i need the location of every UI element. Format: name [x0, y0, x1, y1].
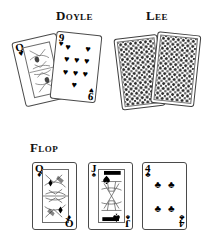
pip-heart: ♥ — [83, 57, 89, 67]
card-queen-of-diamonds[interactable]: Q ♦ — [32, 162, 77, 230]
card-index-bottom-right: J ♠ — [125, 213, 131, 228]
card-face-down-right[interactable] — [150, 31, 201, 107]
club-icon: ♣ — [179, 213, 184, 220]
diamond-icon: ♦ — [37, 172, 41, 179]
card-index-bottom-right: 4 ♣ — [179, 213, 185, 228]
poker-illustration: Doyle Q ♥ — [0, 0, 212, 240]
pip-heart: ♥ — [85, 45, 91, 55]
pip-grid-four-clubs: ♣ ♣ ♣ ♣ — [151, 172, 178, 220]
pip-club: ♣ — [168, 179, 175, 190]
pip-heart: ♥ — [74, 56, 80, 66]
pip-heart: ♥ — [64, 55, 70, 65]
pip-club: ♣ — [168, 203, 175, 214]
card-nine-of-hearts[interactable]: 9 ♥ ♥ ♥ ♥ ♥ ♥ ♥ ♥ ♥ ♥ 9 ♥ — [50, 31, 103, 103]
spade-icon: ♠ — [125, 213, 129, 220]
card-index-top-left: J ♠ — [91, 164, 97, 179]
diamond-icon: ♦ — [68, 213, 72, 220]
card-back-pattern — [153, 34, 198, 104]
pip-heart: ♥ — [62, 67, 68, 77]
pip-club: ♣ — [154, 179, 161, 190]
pip-heart: ♥ — [71, 81, 77, 91]
spade-icon: ♠ — [92, 172, 96, 179]
card-index-top-left: 4 ♣ — [145, 164, 151, 179]
court-card-art-jack-spades — [98, 169, 125, 223]
club-icon: ♣ — [145, 172, 150, 179]
card-index-bottom-right: 9 ♥ — [87, 85, 94, 101]
heart-icon: ♥ — [88, 85, 93, 92]
pip-heart: ♥ — [72, 68, 78, 78]
card-jack-of-spades[interactable]: J ♠ — [88, 162, 133, 230]
card-index-bottom-right: Q ♦ — [65, 213, 74, 228]
card-four-of-clubs[interactable]: 4 ♣ ♣ ♣ ♣ ♣ 4 ♣ — [142, 162, 187, 230]
pip-club: ♣ — [154, 203, 161, 214]
pip-heart: ♥ — [65, 43, 71, 53]
pip-heart: ♥ — [82, 70, 88, 80]
